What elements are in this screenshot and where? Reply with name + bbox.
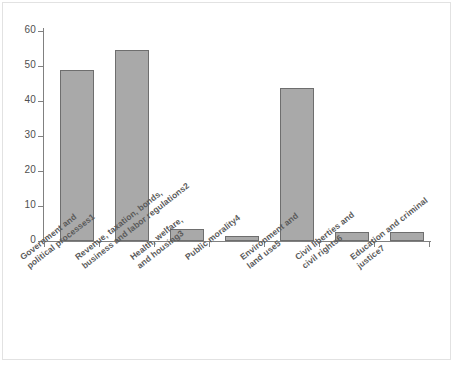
x-tick-mark [154,241,155,247]
bar-education-and-criminal-justice [390,232,424,241]
x-tick-mark [209,241,210,247]
bar-public-morality [225,236,259,241]
y-tick-label: 20 [24,164,36,175]
x-tick-mark [429,241,430,247]
y-tick-label: 30 [24,129,36,140]
y-tick-label: 50 [24,59,36,70]
bar-civil-liberties-and-civil-rights [335,232,369,242]
bar-chart-figure: 0 10 20 30 40 50 60 [0,0,455,365]
y-tick-label: 40 [24,94,36,105]
x-tick-mark [264,241,265,247]
y-tick-label: 60 [24,24,36,35]
x-axis-line [43,241,431,242]
y-tick-label: 10 [24,199,36,210]
x-tick-mark [44,241,45,247]
y-tick-label: 0 [30,234,36,245]
bar-revenue-taxation-bonds-business-and-labor-regulations [115,50,149,241]
bar-government-and-political-processes [60,70,94,242]
bar-environment-and-land-use [280,88,314,241]
bar-health-welfare-and-housing [170,229,204,241]
x-tick-mark [319,241,320,247]
x-tick-mark [374,241,375,247]
x-tick-mark [99,241,100,247]
bars-layer [44,31,429,241]
